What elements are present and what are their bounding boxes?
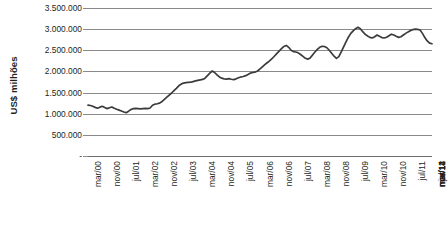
x-axis-tick-label: nov/10 <box>397 158 409 222</box>
y-axis-tick-labels: 3.500.0003.000.0002.500.0002.000.0001.50… <box>26 8 86 156</box>
series-polyline <box>88 27 432 112</box>
gridline <box>88 156 432 157</box>
x-axis-tick-label: mar/08 <box>321 158 333 222</box>
plot-area <box>88 8 432 156</box>
x-axis-tick-label: nov/02 <box>168 158 180 222</box>
data-series-line <box>88 8 432 156</box>
x-axis-tick-label: mar/00 <box>92 158 104 222</box>
y-axis-title-label: US$ milhões <box>8 56 19 114</box>
x-axis-tick-label: jul/01 <box>130 158 142 222</box>
y-axis-tick-label: 1.000.000 <box>24 110 82 118</box>
y-axis-tick-label: 3.500.000 <box>24 4 82 12</box>
y-axis-tick-label: - <box>24 152 82 160</box>
y-axis-tick-label: 2.000.000 <box>24 67 82 75</box>
x-axis-tick-label: mar/04 <box>206 158 218 222</box>
x-axis-tick-label: nov/00 <box>111 158 123 222</box>
x-axis-tick-label: mar/06 <box>264 158 276 222</box>
y-axis-tick-label: 500.000 <box>24 131 82 139</box>
x-axis-tick-label: nov/14 <box>436 158 448 222</box>
y-axis-tick-label: 1.500.000 <box>24 88 82 96</box>
x-axis-tick-label: jul/03 <box>187 158 199 222</box>
y-axis-title: US$ milhões <box>0 0 26 170</box>
x-axis-tick-label: nov/04 <box>225 158 237 222</box>
x-axis-tick-label: mar/02 <box>149 158 161 222</box>
y-axis-tick-mark <box>83 156 88 157</box>
x-axis-tick-label: nov/06 <box>283 158 295 222</box>
x-axis-tick-label: jul/05 <box>244 158 256 222</box>
y-axis-tick-label: 3.000.000 <box>24 25 82 33</box>
x-axis-tick-label: jul/07 <box>302 158 314 222</box>
x-axis-tick-label: mar/10 <box>378 158 390 222</box>
x-axis-tick-label: jul/09 <box>359 158 371 222</box>
x-axis-tick-label: jul/11 <box>416 158 428 222</box>
x-axis-tick-label: nov/08 <box>340 158 352 222</box>
x-axis-tick-labels: mar/00nov/00jul/01mar/02nov/02jul/03mar/… <box>88 158 432 222</box>
y-axis-tick-label: 2.500.000 <box>24 46 82 54</box>
